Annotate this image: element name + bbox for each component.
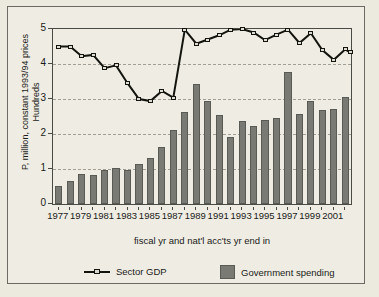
line-data-point (240, 27, 245, 31)
legend-swatch-icon (220, 265, 235, 279)
legend-label-sector-gdp: Sector GDP (116, 266, 167, 277)
line-data-point (263, 38, 268, 42)
y-axis-tick-label: 5 (30, 23, 46, 33)
line-data-point (285, 28, 290, 32)
y-axis-tick-mark (48, 28, 52, 29)
line-data-point (348, 50, 353, 54)
line-data-point (114, 63, 119, 67)
chart-page: P, million, constant 1993/94 prices Hund… (0, 0, 379, 297)
y-axis-tick-mark (48, 133, 52, 134)
y-axis-tick-label: 1 (30, 163, 46, 173)
chart-frame: P, million, constant 1993/94 prices Hund… (7, 6, 365, 284)
line-data-point (205, 38, 210, 42)
y-axis-tick-label: 2 (30, 128, 46, 138)
line-data-point (217, 33, 222, 37)
legend-label-government-spending: Government spending (241, 267, 334, 278)
y-axis-tick-label: 4 (30, 58, 46, 68)
line-data-point (182, 28, 187, 32)
y-axis-tick-mark (48, 203, 52, 204)
line-data-point (308, 31, 313, 35)
x-axis-labels: 1977197919811983198519871989199119931995… (52, 207, 352, 221)
legend-item-government-spending: Government spending (220, 265, 334, 279)
legend-item-sector-gdp: Sector GDP (84, 266, 167, 277)
line-data-point (274, 33, 279, 37)
line-series-sector-gdp (53, 29, 351, 204)
x-axis-title: fiscal yr and nat'l acc'ts yr end in (52, 235, 352, 246)
y-axis-tick-label: 0 (30, 198, 46, 208)
plot-area (52, 28, 352, 205)
line-data-point (148, 99, 153, 103)
line-data-point (331, 58, 336, 62)
line-data-point (320, 48, 325, 52)
line-data-point (171, 96, 176, 100)
line-data-point (297, 41, 302, 45)
y-axis-tick-label: 3 (30, 93, 46, 103)
line-data-point (68, 45, 73, 49)
line-data-point (194, 42, 199, 46)
legend-line-marker-icon (84, 267, 110, 276)
chart-legend: Sector GDP Government spending (52, 265, 352, 283)
y-axis-tick-mark (48, 63, 52, 64)
y-axis-tick-mark (48, 98, 52, 99)
line-data-point (228, 28, 233, 32)
y-axis-tick-mark (48, 168, 52, 169)
line-data-point (159, 89, 164, 93)
x-axis-tick-label: 2001 (320, 210, 346, 221)
line-data-point (56, 45, 61, 49)
line-data-point (102, 66, 107, 70)
line-data-point (125, 81, 130, 85)
line-data-point (136, 97, 141, 101)
line-data-point (251, 31, 256, 35)
line-data-point (79, 54, 84, 58)
line-data-point (91, 53, 96, 57)
